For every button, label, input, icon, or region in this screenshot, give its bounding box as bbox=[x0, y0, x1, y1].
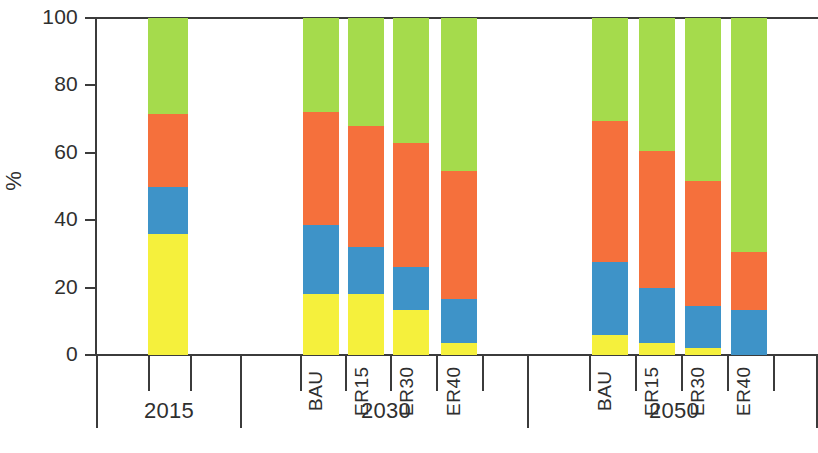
y-tick-label-text: 40 bbox=[0, 207, 78, 231]
bar-2050-er15-segment-yellow[interactable] bbox=[639, 343, 675, 355]
bar-2030-er30-segment-green[interactable] bbox=[393, 18, 429, 143]
bar-2030-er40-segment-green[interactable] bbox=[441, 18, 477, 171]
bar-2030-er30-segment-yellow[interactable] bbox=[393, 310, 429, 355]
y-tick-label-0: 0 bbox=[0, 342, 78, 366]
bar-2050-er30-segment-orange[interactable] bbox=[685, 181, 721, 306]
bar-2050-bau-segment-green[interactable] bbox=[592, 18, 628, 121]
bar-2050-er40-segment-green[interactable] bbox=[731, 18, 767, 252]
y-tick-20 bbox=[85, 287, 96, 289]
bar-2030-er15-segment-orange[interactable] bbox=[348, 126, 384, 247]
y-tick-label-text: 0 bbox=[0, 342, 78, 366]
y-tick-label-20: 20 bbox=[0, 275, 78, 299]
y-axis-line bbox=[95, 17, 97, 356]
y-tick-80 bbox=[85, 84, 96, 86]
bar-2030-er40[interactable] bbox=[441, 18, 477, 355]
bar-2050-er15-segment-orange[interactable] bbox=[639, 151, 675, 287]
y-tick-0 bbox=[85, 354, 96, 356]
bar-2050-er30-segment-blue[interactable] bbox=[685, 306, 721, 348]
bar-2050-er30-segment-yellow[interactable] bbox=[685, 348, 721, 355]
scenario-label-er40-7: ER40 bbox=[733, 356, 767, 426]
x-tick-major-1 bbox=[240, 356, 242, 428]
bar-2030-er30-segment-orange[interactable] bbox=[393, 143, 429, 268]
x-tick-minor-6 bbox=[482, 356, 484, 391]
bar-2030-bau-segment-orange[interactable] bbox=[303, 112, 339, 225]
stacked-bar-chart-figure: % 100806040200 BAUER15ER30ER40BAUER15ER3… bbox=[0, 0, 818, 453]
y-tick-40 bbox=[85, 219, 96, 221]
bar-2050-bau-segment-yellow[interactable] bbox=[592, 335, 628, 355]
bar-2050-er40-segment-orange[interactable] bbox=[731, 252, 767, 309]
x-tick-minor-2 bbox=[300, 356, 302, 391]
x-tick-minor-5 bbox=[436, 356, 438, 391]
bar-2030-bau-segment-green[interactable] bbox=[303, 18, 339, 112]
y-tick-label-100: 100 bbox=[0, 5, 78, 29]
x-tick-minor-9 bbox=[681, 356, 683, 391]
y-axis-title: % bbox=[1, 161, 27, 201]
y-tick-label-text: 100 bbox=[0, 5, 78, 29]
x-tick-major-2 bbox=[527, 356, 529, 428]
x-tick-minor-4 bbox=[390, 356, 392, 391]
bar-2015[interactable] bbox=[148, 18, 188, 355]
bar-2050-bau-segment-blue[interactable] bbox=[592, 262, 628, 334]
bar-2030-er15[interactable] bbox=[348, 18, 384, 355]
y-tick-label-80: 80 bbox=[0, 72, 78, 96]
bar-2050-bau[interactable] bbox=[592, 18, 628, 355]
y-tick-100 bbox=[85, 17, 96, 19]
y-tick-label-text: 60 bbox=[0, 140, 78, 164]
bar-2030-bau[interactable] bbox=[303, 18, 339, 355]
bar-2050-er15-segment-blue[interactable] bbox=[639, 288, 675, 344]
bar-2030-er15-segment-yellow[interactable] bbox=[348, 294, 384, 355]
plot-area: % 100806040200 BAUER15ER30ER40BAUER15ER3… bbox=[0, 0, 818, 453]
bar-2030-er30[interactable] bbox=[393, 18, 429, 355]
group-label-2030: 2030 bbox=[330, 398, 442, 424]
bar-2015-segment-yellow[interactable] bbox=[148, 234, 188, 355]
y-tick-60 bbox=[85, 152, 96, 154]
bar-2030-er40-segment-orange[interactable] bbox=[441, 171, 477, 299]
y-tick-label-40: 40 bbox=[0, 207, 78, 231]
y-tick-label-60: 60 bbox=[0, 140, 78, 164]
x-tick-minor-10 bbox=[727, 356, 729, 391]
x-tick-minor-7 bbox=[589, 356, 591, 391]
bar-2050-er30-segment-green[interactable] bbox=[685, 18, 721, 181]
bar-2050-er40[interactable] bbox=[731, 18, 767, 355]
y-tick-label-text: 20 bbox=[0, 275, 78, 299]
bar-2030-er15-segment-blue[interactable] bbox=[348, 247, 384, 294]
bar-2050-er40-segment-blue[interactable] bbox=[731, 310, 767, 355]
x-tick-minor-8 bbox=[635, 356, 637, 391]
scenario-label-er40-3: ER40 bbox=[443, 356, 477, 426]
x-tick-minor-3 bbox=[345, 356, 347, 391]
bar-2050-bau-segment-orange[interactable] bbox=[592, 121, 628, 263]
bar-2030-er40-segment-blue[interactable] bbox=[441, 299, 477, 343]
bar-2050-er15-segment-green[interactable] bbox=[639, 18, 675, 151]
bar-2015-segment-green[interactable] bbox=[148, 18, 188, 114]
group-label-2015: 2015 bbox=[113, 398, 225, 424]
bar-2015-segment-orange[interactable] bbox=[148, 114, 188, 186]
x-tick-major-0 bbox=[96, 356, 98, 428]
y-tick-label-text: 80 bbox=[0, 72, 78, 96]
bar-2050-er15[interactable] bbox=[639, 18, 675, 355]
x-tick-minor-11 bbox=[773, 356, 775, 391]
bar-2030-bau-segment-blue[interactable] bbox=[303, 225, 339, 294]
bar-2030-bau-segment-yellow[interactable] bbox=[303, 294, 339, 355]
group-label-2050: 2050 bbox=[618, 398, 730, 424]
bar-2030-er40-segment-yellow[interactable] bbox=[441, 343, 477, 355]
bar-2030-er30-segment-blue[interactable] bbox=[393, 267, 429, 309]
x-tick-minor-0 bbox=[148, 356, 150, 391]
bar-2050-er30[interactable] bbox=[685, 18, 721, 355]
bar-2015-segment-blue[interactable] bbox=[148, 187, 188, 234]
bar-2030-er15-segment-green[interactable] bbox=[348, 18, 384, 126]
x-tick-minor-1 bbox=[190, 356, 192, 391]
